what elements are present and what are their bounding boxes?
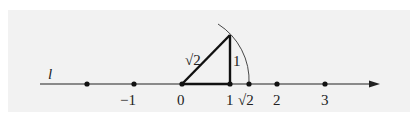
arrow-head-icon [369, 81, 380, 88]
point-1 [227, 81, 232, 86]
hypotenuse-label: √2 [185, 52, 201, 68]
line-label: l [48, 66, 52, 82]
number-line-diagram: l √2 1 −1 0 1 √2 2 3 [0, 0, 417, 119]
point-neg2 [84, 81, 89, 86]
tick-label-1: 1 [226, 92, 234, 108]
point-neg1 [131, 81, 136, 86]
tick-label-0: 0 [177, 92, 185, 108]
point-3 [322, 81, 327, 86]
tick-label-neg1: −1 [120, 92, 136, 108]
tick-label-2: 2 [273, 92, 281, 108]
tick-label-sqrt2: √2 [238, 92, 254, 108]
tick-label-3: 3 [321, 92, 329, 108]
point-sqrt2 [246, 81, 251, 86]
side-label: 1 [233, 53, 241, 69]
point-0 [179, 81, 184, 86]
point-2 [274, 81, 279, 86]
